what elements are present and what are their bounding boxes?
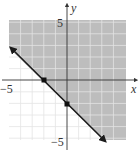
x-axis-label: x xyxy=(130,82,137,96)
point-y-intercept xyxy=(65,102,70,107)
point-x-intercept xyxy=(42,78,47,83)
y-axis-label: y xyxy=(70,1,77,15)
inequality-graph: y x 5 −5 −5 xyxy=(0,0,140,152)
y-tick-top: 5 xyxy=(57,16,63,30)
y-tick-bottom: −5 xyxy=(51,135,64,149)
x-tick-left: −5 xyxy=(0,82,13,96)
